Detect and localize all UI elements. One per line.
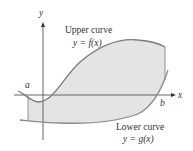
a-label: a (25, 80, 30, 90)
lower-curve-equation: y = g(x) (122, 134, 154, 145)
x-axis-label: x (177, 90, 183, 100)
y-axis-arrow-icon (41, 22, 45, 27)
x-axis-arrow-icon (171, 93, 176, 97)
y-axis-label: y (38, 8, 44, 18)
shaded-region (28, 40, 165, 124)
upper-curve-equation: y = f(x) (72, 38, 102, 49)
upper-curve-title: Upper curve (65, 25, 112, 35)
b-label: b (160, 98, 165, 108)
lower-curve-title: Lower curve (116, 122, 164, 132)
area-between-curves-diagram: y x a b Upper curve y = f(x) Lower curve… (0, 0, 193, 151)
